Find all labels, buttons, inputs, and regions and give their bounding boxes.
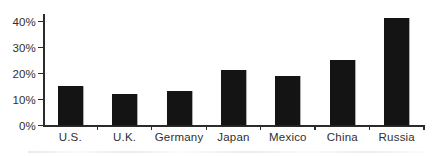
bar-chart-figure: 0%10%20%30%40% U.S.U.K.GermanyJapanMexic… xyxy=(0,0,433,156)
x-tick xyxy=(260,125,261,130)
x-tick-label: U.S. xyxy=(43,131,97,143)
x-tick xyxy=(423,125,424,130)
scan-artifact xyxy=(28,151,428,153)
x-tick-label: Mexico xyxy=(261,131,315,143)
plot-area: 0%10%20%30%40% U.S.U.K.GermanyJapanMexic… xyxy=(0,0,433,156)
bar-china xyxy=(330,60,355,125)
bar-uk xyxy=(112,94,137,125)
bar-mexico xyxy=(275,76,300,125)
x-tick xyxy=(97,125,98,130)
y-axis-line xyxy=(43,14,45,127)
x-tick-label: U.K. xyxy=(97,131,151,143)
x-tick xyxy=(314,125,315,130)
bar-japan xyxy=(221,70,246,125)
y-tick-label: 30% xyxy=(2,43,36,54)
y-tick-label: 40% xyxy=(2,17,36,28)
x-tick-label: Germany xyxy=(152,131,206,143)
y-tick xyxy=(38,73,43,74)
y-tick xyxy=(38,125,43,126)
bar-us xyxy=(58,86,83,125)
y-tick xyxy=(38,21,43,22)
x-tick-label: China xyxy=(315,131,369,143)
y-tick xyxy=(38,47,43,48)
y-tick-label: 10% xyxy=(2,95,36,106)
y-tick-label: 0% xyxy=(2,121,36,132)
bar-russia xyxy=(384,18,409,125)
x-tick xyxy=(369,125,370,130)
x-tick-label: Japan xyxy=(206,131,260,143)
x-axis-line xyxy=(43,125,424,127)
bar-germany xyxy=(167,91,192,125)
x-tick-label: Russia xyxy=(370,131,424,143)
y-tick xyxy=(38,99,43,100)
x-tick xyxy=(206,125,207,130)
y-tick-label: 20% xyxy=(2,69,36,80)
x-tick xyxy=(151,125,152,130)
